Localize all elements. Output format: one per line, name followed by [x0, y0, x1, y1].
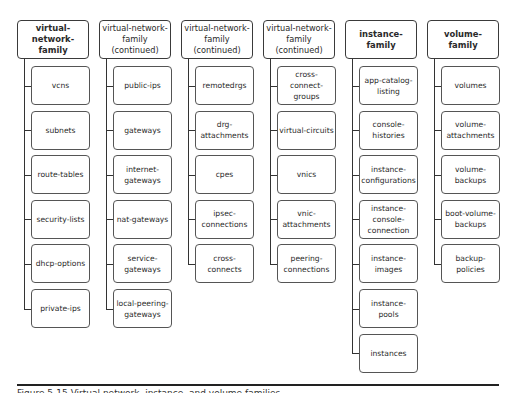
tree-branch-line [352, 86, 359, 87]
tree-branch-line [188, 219, 195, 220]
tree-branch-line [434, 130, 441, 131]
resource-type-node: security-lists [31, 200, 90, 239]
family-header: virtual-network-family (continued) [181, 20, 253, 59]
resource-type-node: gateways [113, 111, 172, 150]
resource-type-node: ipsec-connections [195, 200, 254, 239]
tree-branch-line [24, 309, 31, 310]
tree-branch-line [106, 130, 113, 131]
caption-rule [17, 384, 499, 386]
resource-type-node: service-gateways [113, 244, 172, 283]
tree-branch-line [434, 219, 441, 220]
tree-branch-line [24, 219, 31, 220]
tree-connector-line [188, 59, 189, 265]
tree-branch-line [106, 219, 113, 220]
tree-branch-line [24, 86, 31, 87]
family-header: virtual-network-family [17, 20, 89, 59]
tree-branch-line [106, 175, 113, 176]
resource-type-node: remotedrgs [195, 66, 254, 105]
resource-type-node: vcns [31, 66, 90, 105]
tree-branch-line [188, 86, 195, 87]
resource-type-node: cross-connect-groups [277, 66, 336, 105]
tree-branch-line [352, 175, 359, 176]
resource-type-node: dhcp-options [31, 244, 90, 283]
resource-type-node: instances [359, 334, 418, 373]
family-header: volume-family [427, 20, 499, 59]
resource-type-node: internet-gateways [113, 155, 172, 194]
tree-branch-line [188, 264, 195, 265]
resource-type-node: route-tables [31, 155, 90, 194]
resource-type-node: volumes [441, 66, 500, 105]
tree-connector-line [434, 59, 435, 265]
resource-type-node: backup-policies [441, 244, 500, 283]
resource-type-node: vnics [277, 155, 336, 194]
resource-type-node: drg-attachments [195, 111, 254, 150]
tree-branch-line [434, 264, 441, 265]
resource-type-node: virtual-circuits [277, 111, 336, 150]
tree-branch-line [352, 309, 359, 310]
tree-branch-line [270, 86, 277, 87]
tree-branch-line [24, 130, 31, 131]
tree-branch-line [106, 264, 113, 265]
resource-type-node: public-ips [113, 66, 172, 105]
tree-branch-line [434, 175, 441, 176]
tree-branch-line [270, 219, 277, 220]
figure-caption: Figure 5-15 Virtual network, instance, a… [17, 388, 280, 393]
tree-branch-line [352, 219, 359, 220]
family-header: instance-family [345, 20, 417, 59]
resource-type-node: subnets [31, 111, 90, 150]
tree-branch-line [270, 130, 277, 131]
resource-type-node: local-peering-gateways [113, 289, 172, 328]
tree-connector-line [352, 59, 353, 354]
resource-type-node: volume-attachments [441, 111, 500, 150]
tree-branch-line [352, 130, 359, 131]
tree-branch-line [352, 264, 359, 265]
resource-type-node: console-histories [359, 111, 418, 150]
tree-branch-line [188, 130, 195, 131]
resource-type-node: volume-backups [441, 155, 500, 194]
tree-branch-line [106, 86, 113, 87]
family-header: virtual-network-family (continued) [99, 20, 171, 59]
tree-branch-line [188, 175, 195, 176]
tree-branch-line [352, 353, 359, 354]
family-header: virtual-network-family (continued) [263, 20, 335, 59]
tree-connector-line [106, 59, 107, 310]
tree-branch-line [24, 264, 31, 265]
resource-type-node: nat-gateways [113, 200, 172, 239]
resource-type-node: vnic-attachments [277, 200, 336, 239]
resource-type-node: instance-console-connection [359, 200, 418, 239]
tree-connector-line [24, 59, 25, 310]
resource-type-node: boot-volume-backups [441, 200, 500, 239]
resource-type-node: cross-connects [195, 244, 254, 283]
resource-type-node: instance-pools [359, 289, 418, 328]
resource-type-node: cpes [195, 155, 254, 194]
resource-type-node: instance-images [359, 244, 418, 283]
tree-branch-line [106, 309, 113, 310]
resource-type-node: peering-connections [277, 244, 336, 283]
resource-type-node: instance-configurations [359, 155, 418, 194]
tree-branch-line [270, 175, 277, 176]
tree-connector-line [270, 59, 271, 265]
resource-type-node: app-catalog-listing [359, 66, 418, 105]
tree-branch-line [434, 86, 441, 87]
resource-type-node: private-ips [31, 289, 90, 328]
tree-branch-line [270, 264, 277, 265]
tree-branch-line [24, 175, 31, 176]
